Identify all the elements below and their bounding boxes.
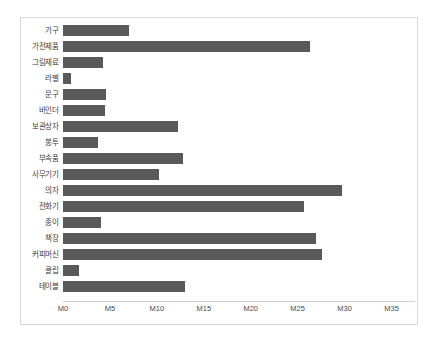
category-label: 전화기	[21, 199, 59, 215]
bar-track	[63, 87, 415, 103]
x-tick-label: M25	[290, 304, 305, 313]
bar-row: 테이블	[21, 279, 417, 295]
bar[interactable]	[63, 201, 304, 212]
plot-area: 가구가전제품그림재료라벨문구바인더보관상자봉투부속품사무기기의자전화기종이책장커…	[21, 18, 417, 324]
category-label: 바인더	[21, 103, 59, 119]
bar-track	[63, 199, 415, 215]
bar[interactable]	[63, 217, 101, 228]
bar-track	[63, 183, 415, 199]
bar-track	[63, 215, 415, 231]
category-label: 봉투	[21, 135, 59, 151]
bar-track	[63, 231, 415, 247]
category-label: 클립	[21, 263, 59, 279]
category-label: 책장	[21, 231, 59, 247]
bar-row: 라벨	[21, 71, 417, 87]
category-label: 라벨	[21, 71, 59, 87]
bar-row: 클립	[21, 263, 417, 279]
x-tick-label: M35	[384, 304, 399, 313]
bar-row: 문구	[21, 87, 417, 103]
bar-track	[63, 247, 415, 263]
bar-row: 종이	[21, 215, 417, 231]
x-tick-label: M20	[243, 304, 258, 313]
x-axis-ticks: M0M5M10M15M20M25M30M35	[63, 304, 415, 320]
bar[interactable]	[63, 89, 106, 100]
bar-track	[63, 39, 415, 55]
x-tick-label: M0	[58, 304, 68, 313]
bar-row: 봉투	[21, 135, 417, 151]
x-tick-label: M10	[150, 304, 165, 313]
bar-track	[63, 119, 415, 135]
x-tick-label: M5	[105, 304, 115, 313]
category-label: 의자	[21, 183, 59, 199]
bar-row: 사무기기	[21, 167, 417, 183]
bar[interactable]	[63, 185, 342, 196]
bar-track	[63, 103, 415, 119]
bar-row: 가전제품	[21, 39, 417, 55]
bar[interactable]	[63, 73, 71, 84]
category-label: 가구	[21, 23, 59, 39]
bar-row: 책장	[21, 231, 417, 247]
bar[interactable]	[63, 169, 159, 180]
bar-row: 보관상자	[21, 119, 417, 135]
bar[interactable]	[63, 137, 98, 148]
category-label: 부속품	[21, 151, 59, 167]
bar-track	[63, 151, 415, 167]
bar[interactable]	[63, 41, 310, 52]
chart-container: 가구가전제품그림재료라벨문구바인더보관상자봉투부속품사무기기의자전화기종이책장커…	[20, 17, 418, 325]
x-tick-label: M15	[197, 304, 212, 313]
category-label: 커피머신	[21, 247, 59, 263]
bar[interactable]	[63, 265, 79, 276]
category-label: 테이블	[21, 279, 59, 295]
bar-row: 커피머신	[21, 247, 417, 263]
bar-row: 부속품	[21, 151, 417, 167]
category-label: 가전제품	[21, 39, 59, 55]
bar[interactable]	[63, 105, 105, 116]
bar[interactable]	[63, 281, 185, 292]
bar-track	[63, 167, 415, 183]
bar[interactable]	[63, 121, 178, 132]
category-label: 보관상자	[21, 119, 59, 135]
bar-track	[63, 55, 415, 71]
bar[interactable]	[63, 233, 316, 244]
bar[interactable]	[63, 153, 183, 164]
bar-track	[63, 71, 415, 87]
x-tick-label: M30	[337, 304, 352, 313]
category-label: 종이	[21, 215, 59, 231]
bar-row: 가구	[21, 23, 417, 39]
bar-track	[63, 263, 415, 279]
bar[interactable]	[63, 57, 103, 68]
bar-row: 의자	[21, 183, 417, 199]
bar-track	[63, 135, 415, 151]
bar[interactable]	[63, 249, 322, 260]
x-axis-line	[63, 301, 415, 302]
category-label: 사무기기	[21, 167, 59, 183]
category-label: 문구	[21, 87, 59, 103]
bar-row: 바인더	[21, 103, 417, 119]
bar[interactable]	[63, 25, 129, 36]
bar-track	[63, 279, 415, 295]
bar-row: 그림재료	[21, 55, 417, 71]
bar-row: 전화기	[21, 199, 417, 215]
bar-track	[63, 23, 415, 39]
category-label: 그림재료	[21, 55, 59, 71]
